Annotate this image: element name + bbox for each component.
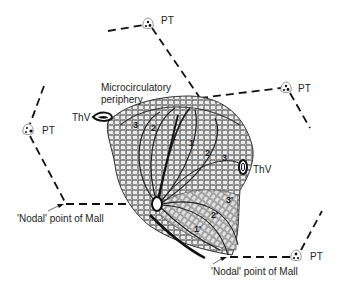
thv-right-label: ThV xyxy=(253,164,271,175)
liver-acinus-diagram: 3 2 1 1 2 3 1' 2' 3' xyxy=(0,0,342,290)
pt-top-label: PT xyxy=(161,15,174,26)
nodal-point-left-label: 'Nodal' point of Mall xyxy=(17,213,104,224)
zone-3-upper-left: 3 xyxy=(133,120,138,130)
central-vessel-node-icon xyxy=(152,197,162,211)
nodal-arrow-bottom-icon xyxy=(213,257,227,264)
thv-left-icon xyxy=(93,113,112,121)
portal-triad-top-icon xyxy=(143,18,153,29)
microcirculatory-label-line1: Microcirculatory xyxy=(101,82,171,93)
pt-left-label: PT xyxy=(42,125,55,136)
portal-triad-left-icon xyxy=(23,124,33,135)
pt-right-label: PT xyxy=(298,83,311,94)
thv-right-icon xyxy=(239,160,247,174)
zone-2-upper-left: 2 xyxy=(151,123,156,133)
zone-1-upper-left: 1 xyxy=(171,132,176,142)
portal-triad-right-icon xyxy=(281,82,291,93)
zone-1-lower: 1' xyxy=(194,224,201,234)
pt-bottom-right-label: PT xyxy=(310,251,323,262)
zone-1-upper-right: 1 xyxy=(189,138,194,148)
acinus-tissue xyxy=(107,96,253,258)
zone-3-upper-right: 3 xyxy=(222,153,227,163)
nodal-arrow-left-icon xyxy=(48,204,64,211)
nodal-point-bottom-label: 'Nodal' point of Mall xyxy=(211,266,298,277)
thv-left-label: ThV xyxy=(72,112,90,123)
zone-2-upper-right: 2 xyxy=(205,148,210,158)
zone-3-lower: 3' xyxy=(226,195,233,205)
zone-2-lower: 2' xyxy=(211,210,218,220)
portal-triad-bottom-right-icon xyxy=(291,250,301,261)
microcirculatory-label-line2: periphery xyxy=(101,94,143,105)
